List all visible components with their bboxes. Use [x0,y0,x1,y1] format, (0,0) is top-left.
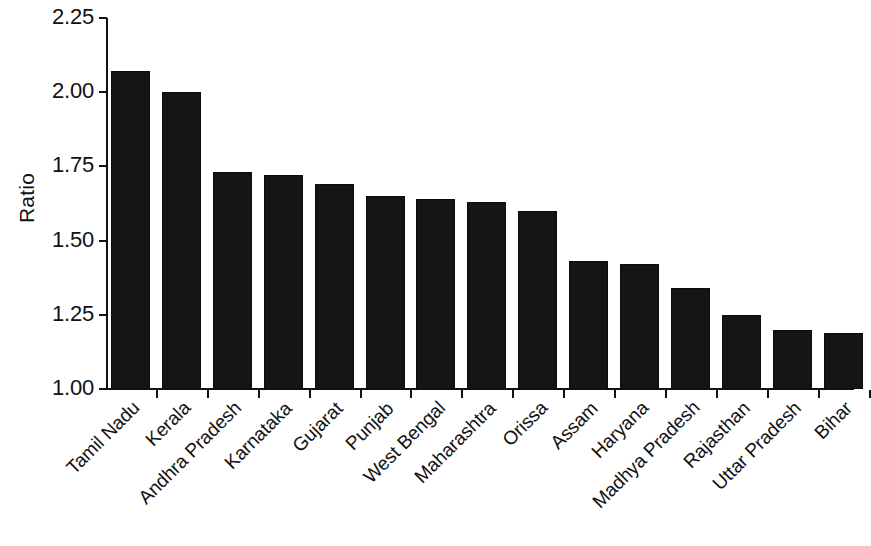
y-axis-tick [99,17,107,19]
bar [264,175,303,389]
y-axis-tick [99,165,107,167]
y-axis-tick [99,91,107,93]
x-axis-tick [767,390,769,398]
x-axis-tick [360,390,362,398]
y-axis-tick-label: 1.75 [24,152,94,178]
bar [824,333,863,389]
bar [620,264,659,389]
y-axis-tick-label: 1.50 [24,227,94,253]
x-axis-label: Gujarat [288,397,347,456]
x-axis-tick [563,390,565,398]
bar [722,315,761,389]
y-axis-tick [99,314,107,316]
x-axis-tick [207,390,209,398]
bar [671,288,710,389]
y-axis-tick-label: 2.00 [24,78,94,104]
x-axis-tick [716,390,718,398]
x-axis-label: Bihar [810,397,857,444]
x-axis-tick [309,390,311,398]
bar [315,184,354,389]
bar [467,202,506,389]
y-axis-tick-label: 1.25 [24,301,94,327]
x-axis-tick [512,390,514,398]
y-axis-tick-label: 1.00 [24,375,94,401]
bar [773,330,812,389]
x-axis-tick [665,390,667,398]
bar [569,261,608,389]
y-axis-tick [99,388,107,390]
bar [518,211,557,389]
y-axis-tick-label: 2.25 [24,4,94,30]
x-axis-tick [818,390,820,398]
bar [366,196,405,389]
x-axis-tick [410,390,412,398]
x-axis-tick [461,390,463,398]
bar [213,172,252,389]
x-axis-tick [156,390,158,398]
bar [416,199,455,389]
x-axis-label: Tamil Nadu [62,397,144,479]
x-axis-label: Orissa [498,397,552,451]
x-axis-tick [258,390,260,398]
y-axis-tick [99,240,107,242]
bar [111,71,150,389]
y-axis-line [106,18,108,390]
x-axis-tick [614,390,616,398]
bar [162,92,201,389]
